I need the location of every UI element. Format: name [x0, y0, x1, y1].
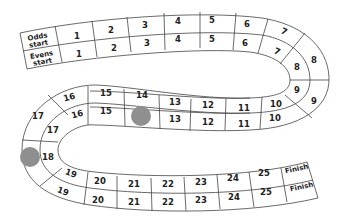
inner-square-6: 6	[242, 38, 248, 48]
inner-square-10: 10	[270, 99, 282, 109]
counter-outer-18[interactable]	[20, 147, 40, 167]
inner-square-23: 23	[195, 177, 207, 187]
inner-square-8: 8	[294, 62, 300, 72]
inner-square-12: 12	[202, 100, 214, 110]
inner-square-2: 2	[111, 43, 117, 53]
outer-square-11: 11	[238, 119, 250, 129]
inner-square-4: 4	[175, 34, 181, 44]
outer-square-25: 25	[260, 187, 272, 197]
inner-square-1: 1	[76, 49, 82, 59]
outer-square-1: 1	[74, 31, 80, 41]
outer-square-19: 19	[56, 184, 71, 197]
inner-square-16: 16	[70, 108, 84, 121]
inner-square-24: 24	[227, 173, 239, 183]
outer-square-10: 10	[269, 113, 281, 123]
inner-square-20: 20	[94, 176, 106, 186]
outer-square-3: 3	[142, 20, 148, 30]
outer-square-24: 24	[228, 192, 240, 202]
inner-square-5: 5	[209, 34, 215, 44]
outer-square-16: 16	[62, 91, 76, 104]
outer-square-17: 17	[32, 111, 44, 121]
game-board: Odds start Evens start 1 2 3 4 5 6 7 8 9…	[0, 0, 342, 224]
track-inner-edge	[27, 51, 290, 99]
counter-inner-14[interactable]	[131, 106, 151, 126]
outer-square-9: 9	[311, 96, 317, 106]
outer-square-14: 14	[136, 90, 148, 100]
outer-square-2: 2	[108, 25, 114, 35]
outer-square-15: 15	[100, 88, 112, 98]
outer-square-6: 6	[244, 19, 250, 29]
inner-square-11: 11	[238, 103, 250, 113]
outer-square-18: 18	[42, 152, 54, 162]
outer-square-5: 5	[209, 15, 215, 25]
inner-square-25: 25	[258, 168, 270, 178]
inner-square-17: 17	[47, 125, 59, 135]
outer-square-13: 13	[169, 114, 181, 124]
outer-square-22: 22	[162, 197, 174, 207]
inner-square-3: 3	[144, 38, 150, 48]
start-edge	[20, 33, 27, 69]
inner-square-22: 22	[162, 179, 174, 189]
outer-finish: Finish	[289, 181, 314, 194]
outer-square-23: 23	[195, 195, 207, 205]
inner-square-13: 13	[169, 97, 181, 107]
outer-square-21: 21	[128, 197, 140, 207]
finish-edge	[307, 162, 318, 198]
outer-square-20: 20	[92, 195, 104, 205]
outer-square-7: 7	[279, 25, 289, 37]
inner-square-15: 15	[100, 106, 112, 116]
inner-finish: Finish	[284, 163, 309, 176]
inner-square-7: 7	[272, 45, 282, 57]
inner-square-21: 21	[128, 179, 140, 189]
inner-square-9: 9	[294, 85, 300, 95]
outer-square-8: 8	[311, 55, 317, 65]
outer-square-12: 12	[202, 117, 214, 127]
outer-square-4: 4	[175, 16, 181, 26]
